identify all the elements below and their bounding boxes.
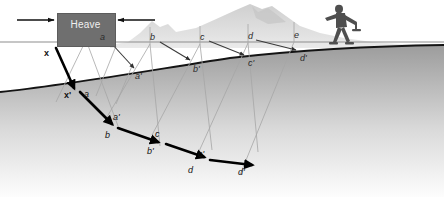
path-label-x-prime: x' <box>64 91 71 100</box>
path-label-b-prime: b' <box>147 147 154 156</box>
surface-label-a: a <box>100 33 105 42</box>
path-label-d: d <box>188 166 193 175</box>
path-label-a-prime: a' <box>113 113 120 122</box>
surface-label-e: e <box>294 31 299 40</box>
slope-label-d-prime: d' <box>300 54 307 63</box>
slope-label-c-prime: c' <box>248 59 254 68</box>
path-label-d-prime: d' <box>238 168 245 177</box>
path-label-c-prime: c' <box>198 150 204 159</box>
surface-label-c: c <box>200 33 205 42</box>
ground-mass <box>0 45 444 197</box>
surface-label-d: d <box>248 32 253 41</box>
mountain-backdrop <box>110 4 444 48</box>
path-label-x: x <box>44 49 49 58</box>
path-label-b: b <box>105 131 110 140</box>
surface-label-b: b <box>150 33 155 42</box>
path-label-a: a <box>84 90 89 99</box>
slope-label-b-prime: b' <box>193 65 200 74</box>
diagram-canvas: Heave a b c d e a' b' c' d' x x' a a' b … <box>0 0 444 197</box>
path-label-c: c <box>155 130 160 139</box>
slope-label-a-prime: a' <box>135 72 142 81</box>
heave-label: Heave <box>57 20 114 30</box>
